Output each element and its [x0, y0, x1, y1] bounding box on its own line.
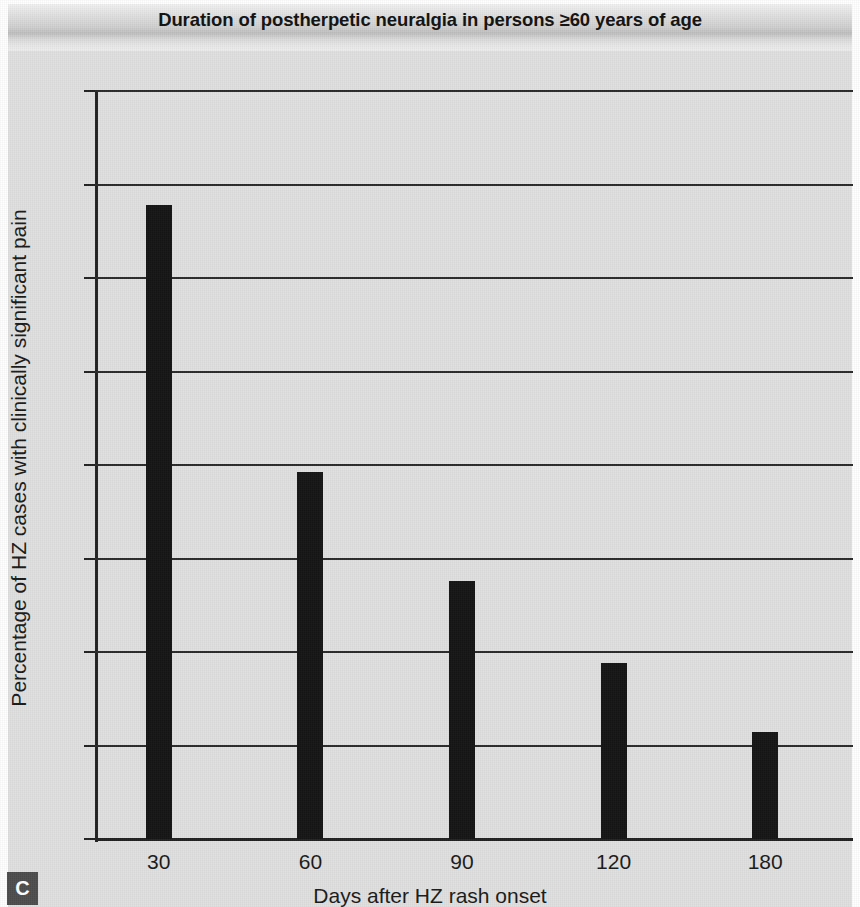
chart-title: Duration of postherpetic neuralgia in pe… [158, 9, 702, 31]
figure-panel-c: Duration of postherpetic neuralgia in pe… [0, 0, 860, 907]
x-axis-title: Days after HZ rash onset [0, 884, 860, 907]
y-tick-30 [84, 277, 95, 279]
y-tick-25 [84, 371, 95, 373]
y-axis-title: Percentage of HZ cases with clinically s… [7, 108, 31, 808]
gridline-30 [95, 277, 853, 279]
bar-60 [297, 472, 323, 839]
gridline-20 [95, 464, 853, 466]
y-tick-40 [84, 90, 95, 92]
x-tick-label-180: 180 [748, 850, 783, 874]
gridline-40 [95, 90, 853, 92]
y-tick-35 [84, 184, 95, 186]
y-tick-0 [84, 838, 95, 840]
chart-title-bar: Duration of postherpetic neuralgia in pe… [8, 4, 852, 51]
y-tick-20 [84, 464, 95, 466]
x-tick-label-90: 90 [450, 850, 473, 874]
panel-letter-badge: C [7, 872, 38, 905]
x-tick-label-60: 60 [299, 850, 322, 874]
gridline-35 [95, 184, 853, 186]
bar-120 [601, 663, 627, 839]
bar-180 [752, 732, 778, 839]
y-tick-10 [84, 651, 95, 653]
y-tick-5 [84, 745, 95, 747]
bar-30 [146, 205, 172, 839]
y-tick-15 [84, 558, 95, 560]
y-axis-line [95, 91, 98, 842]
gridline-25 [95, 371, 853, 373]
chart-plot-area [95, 91, 853, 839]
gridline-15 [95, 558, 853, 560]
bar-90 [449, 581, 475, 839]
x-tick-label-120: 120 [596, 850, 631, 874]
x-tick-label-30: 30 [147, 850, 170, 874]
